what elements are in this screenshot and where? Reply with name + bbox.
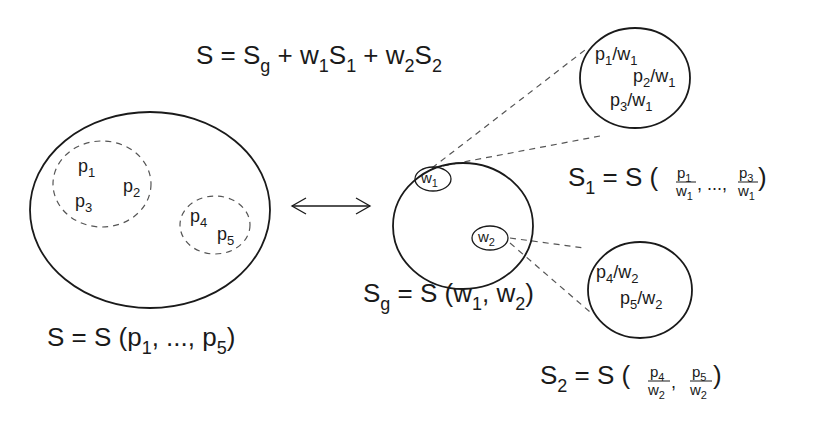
label-p5-w2: p5/w2 bbox=[620, 288, 662, 312]
svg-text:p4: p4 bbox=[650, 363, 664, 383]
svg-text:w2: w2 bbox=[689, 381, 707, 401]
svg-text:): ) bbox=[713, 360, 722, 390]
label-p1-w1: p1/w1 bbox=[595, 44, 637, 68]
bidirectional-arrow-icon bbox=[292, 198, 370, 214]
label-p1: p1 bbox=[78, 156, 95, 180]
label-w2: w2 bbox=[477, 228, 495, 248]
label-p3: p3 bbox=[75, 191, 92, 215]
svg-text:): ) bbox=[758, 162, 767, 192]
svg-text:S = Sg + w1S1 + w2S2: S = Sg + w1S1 + w2S2 bbox=[196, 40, 442, 76]
label-p2: p2 bbox=[123, 176, 140, 200]
global-set: w1 w2 Sg = S (w1, w2) bbox=[363, 163, 534, 314]
global-set-caption: Sg = S (w1, w2) bbox=[363, 278, 534, 314]
label-p5: p5 bbox=[217, 224, 234, 248]
svg-text:p5: p5 bbox=[692, 363, 706, 383]
svg-text:w2: w2 bbox=[647, 381, 665, 401]
sub-set-1-equation: S1 = S ( p1 w1 , ..., p3 w1 ) bbox=[568, 162, 767, 202]
sub-set-2-equation: S2 = S ( p4 w2 , p5 w2 ) bbox=[540, 360, 722, 401]
svg-text:p1: p1 bbox=[677, 164, 691, 184]
top-equation: S = Sg + w1S1 + w2S2 bbox=[196, 40, 442, 76]
left-set: p1 p2 p3 p4 p5 S = S (p1, ..., p5) bbox=[30, 112, 270, 358]
group1-dashed-ellipse bbox=[53, 141, 151, 227]
label-p4-w2: p4/w2 bbox=[596, 262, 638, 286]
label-p2-w1: p2/w1 bbox=[633, 66, 675, 90]
label-p3-w1: p3/w1 bbox=[610, 90, 652, 114]
svg-text:,: , bbox=[671, 372, 676, 392]
set-decomposition-diagram: S = Sg + w1S1 + w2S2 p1 p2 p3 p4 p5 S = … bbox=[0, 0, 819, 422]
svg-text:, ...,: , ..., bbox=[697, 174, 727, 194]
label-w1: w1 bbox=[420, 169, 438, 189]
label-p4: p4 bbox=[190, 206, 207, 230]
global-set-ellipse bbox=[393, 163, 533, 289]
sub-set-1: p1/w1 p2/w1 p3/w1 bbox=[580, 28, 690, 128]
left-set-caption: S = S (p1, ..., p5) bbox=[47, 322, 235, 358]
svg-text:S1 = S (: S1 = S ( bbox=[568, 162, 659, 198]
svg-text:p3: p3 bbox=[739, 164, 753, 184]
svg-text:w1: w1 bbox=[737, 182, 755, 202]
svg-text:w1: w1 bbox=[675, 182, 693, 202]
sub-set-2: p4/w2 p5/w2 bbox=[588, 242, 692, 338]
full-set-ellipse bbox=[30, 112, 270, 308]
svg-text:S2 = S (: S2 = S ( bbox=[540, 360, 631, 396]
